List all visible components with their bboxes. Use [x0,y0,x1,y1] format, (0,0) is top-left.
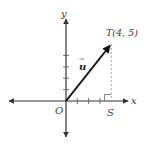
right-angle-mark [105,95,112,102]
y-axis-label: y [60,8,67,19]
origin-label: O [55,105,63,116]
vector-u-label: u [79,61,86,72]
coordinate-diagram: y x O S T(4, 5) u → [0,0,150,146]
vector-arrow-mark: → [79,55,84,62]
x-axis-label: x [131,95,137,106]
vector-u [66,46,110,102]
point-s-label: S [107,107,114,118]
point-t-label: T(4, 5) [106,27,138,38]
